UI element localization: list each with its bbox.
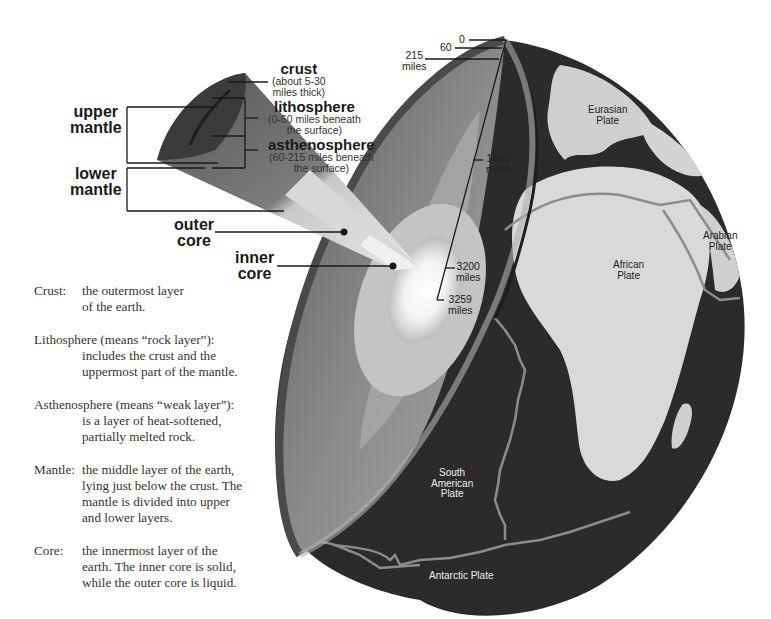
outer-core-line-1: outer — [174, 217, 214, 233]
asthenosphere-label: asthenosphere (60-215 miles beneath the … — [268, 137, 375, 174]
glossary-term: Lithosphere (means “rock layer”): — [34, 332, 334, 348]
african-plate-line-1: African — [613, 260, 644, 271]
glossary-term: Asthenosphere (means “weak layer”): — [34, 397, 334, 413]
glossary-def-line: partially melted rock. — [34, 429, 334, 445]
outer-core-line-2: core — [174, 233, 214, 249]
eurasian-plate-label: Eurasian Plate — [588, 105, 627, 126]
depth-3259-unit: miles — [448, 305, 473, 316]
glossary-term: Core: — [34, 543, 82, 559]
depth-1800-unit: miles — [486, 164, 511, 175]
south-american-plate-label: South American Plate — [431, 468, 473, 500]
asthenosphere-title: asthenosphere — [268, 137, 375, 152]
depth-3200-label: 3200 miles — [456, 261, 481, 283]
glossary-def-line: includes the crust and the — [34, 348, 334, 364]
upper-mantle-line-2: mantle — [70, 120, 122, 136]
glossary: Crust: the outermost layer of the earth.… — [34, 283, 334, 608]
inner-core-line-1: inner — [235, 250, 274, 266]
upper-mantle-label: upper mantle — [70, 104, 122, 136]
glossary-def-line: is a layer of heat-softened, — [34, 413, 334, 429]
inner-core-line-2: core — [235, 266, 274, 282]
upper-mantle-line-1: upper — [70, 104, 122, 120]
glossary-def-line: and lower layers. — [34, 510, 334, 526]
depth-1800-label: 1800 miles — [486, 153, 511, 175]
glossary-def-line: the innermost layer of the — [82, 543, 334, 559]
glossary-def-line: the middle layer of the earth, — [82, 462, 334, 478]
earth-layers-diagram: crust (about 5-30 miles thick) lithosphe… — [0, 0, 771, 619]
arabian-plate-line-1: Arabian — [703, 231, 737, 242]
antarctic-plate-label: Antarctic Plate — [429, 571, 493, 582]
arabian-plate-line-2: Plate — [703, 242, 737, 253]
south-american-plate-line-1: South — [431, 468, 473, 479]
glossary-def-line: while the outer core is liquid. — [34, 575, 334, 591]
crust-title: crust — [272, 61, 326, 76]
depth-215-label: 215 miles — [402, 50, 427, 72]
arabian-plate-label: Arabian Plate — [703, 231, 737, 252]
lower-mantle-line-1: lower — [70, 166, 122, 182]
depth-3259-label: 3259 miles — [448, 294, 473, 316]
lower-mantle-label: lower mantle — [70, 166, 122, 198]
glossary-def-line: mantle is divided into upper — [34, 494, 334, 510]
eurasian-plate-line-2: Plate — [588, 116, 627, 127]
lithosphere-title: lithosphere — [268, 99, 361, 114]
depth-215-unit: miles — [402, 61, 427, 72]
glossary-def-line: the outermost layer — [82, 283, 334, 299]
glossary-entry-core: Core: the innermost layer of the earth. … — [34, 543, 334, 591]
glossary-def-line: of the earth. — [34, 299, 334, 315]
glossary-entry-lithosphere: Lithosphere (means “rock layer”): includ… — [34, 332, 334, 380]
glossary-entry-mantle: Mantle: the middle layer of the earth, l… — [34, 462, 334, 526]
glossary-entry-crust: Crust: the outermost layer of the earth. — [34, 283, 334, 315]
glossary-term: Mantle: — [34, 462, 82, 478]
depth-3200-unit: miles — [456, 272, 481, 283]
glossary-term: Crust: — [34, 283, 82, 299]
lithosphere-note-2: the surface) — [268, 125, 361, 136]
glossary-def-line: lying just below the crust. The — [34, 478, 334, 494]
lithosphere-label: lithosphere (0-60 miles beneath the surf… — [268, 99, 361, 136]
african-plate-line-2: Plate — [613, 271, 644, 282]
south-american-plate-line-3: Plate — [431, 489, 473, 500]
crust-label: crust (about 5-30 miles thick) — [272, 61, 326, 98]
glossary-def-line: earth. The inner core is solid, — [34, 559, 334, 575]
glossary-entry-asthenosphere: Asthenosphere (means “weak layer”): is a… — [34, 397, 334, 445]
african-plate-label: African Plate — [613, 260, 644, 281]
outer-core-label: outer core — [174, 217, 214, 249]
lower-mantle-line-2: mantle — [70, 182, 122, 198]
depth-0-label: 0 — [459, 34, 465, 45]
inner-core-label: inner core — [235, 250, 274, 282]
glossary-def-line: uppermost part of the mantle. — [34, 364, 334, 380]
crust-note-2: miles thick) — [272, 87, 326, 98]
depth-60-label: 60 — [440, 42, 452, 53]
eurasian-plate-line-1: Eurasian — [588, 105, 627, 116]
asthenosphere-note-2: the surface) — [268, 163, 375, 174]
